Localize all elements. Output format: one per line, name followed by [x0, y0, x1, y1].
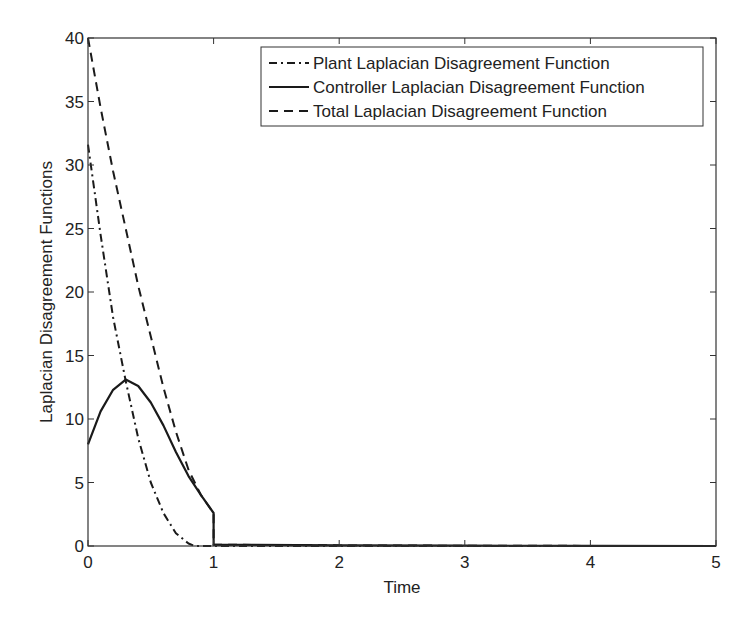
y-tick-label: 10: [65, 410, 84, 429]
legend-item-label: Controller Laplacian Disagreement Functi…: [313, 78, 645, 97]
x-tick-label: 1: [209, 553, 218, 572]
y-tick-label: 15: [65, 347, 84, 366]
x-tick-label: 0: [83, 553, 92, 572]
y-tick-label: 40: [65, 29, 84, 48]
legend: Plant Laplacian Disagreement FunctionCon…: [261, 47, 703, 126]
x-tick-label: 2: [334, 553, 343, 572]
x-tick-label: 3: [460, 553, 469, 572]
y-tick-label: 35: [65, 93, 84, 112]
y-tick-label: 25: [65, 220, 84, 239]
legend-item-label: Plant Laplacian Disagreement Function: [313, 54, 610, 73]
x-tick-label: 4: [586, 553, 595, 572]
series-plant-line: [88, 145, 716, 546]
y-axis-title: Laplacian Disagreement Functions: [37, 161, 56, 423]
x-tick-label: 5: [711, 553, 720, 572]
y-tick-label: 5: [75, 474, 84, 493]
y-tick-label: 0: [75, 537, 84, 556]
line-chart: 0123450510152025303540 Plant Laplacian D…: [0, 0, 754, 617]
x-axis-title: Time: [383, 578, 420, 597]
y-tick-label: 20: [65, 283, 84, 302]
y-tick-label: 30: [65, 156, 84, 175]
legend-item-label: Total Laplacian Disagreement Function: [313, 102, 607, 121]
series-controller-line: [88, 380, 716, 546]
